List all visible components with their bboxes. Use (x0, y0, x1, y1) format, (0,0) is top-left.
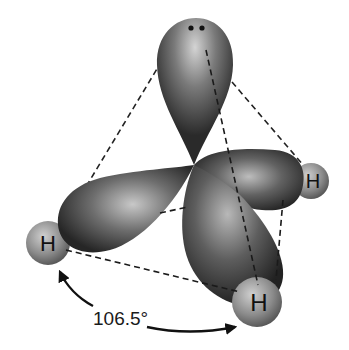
h-left-label: H (40, 231, 56, 256)
orbital-lobe-top-lone-pair (157, 18, 233, 165)
h-right-label: H (306, 170, 320, 192)
angle-arrow-left (60, 272, 93, 306)
orbital-lobe-left (58, 165, 194, 252)
bond-angle-label: 106.5° (93, 308, 148, 329)
h-bottom-label: H (250, 289, 267, 316)
angle-arrow-right (147, 327, 235, 332)
nh3-orbital-diagram: H H H 106.5° (0, 0, 349, 350)
hydrogen-bottom: H (232, 277, 282, 327)
